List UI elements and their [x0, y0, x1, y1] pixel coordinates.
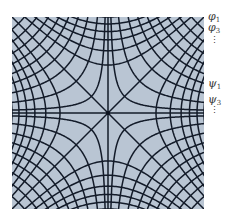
stagnation-point — [106, 111, 110, 115]
phi-ellipsis: ⋮ — [210, 38, 216, 43]
psi-ellipsis: ⋮ — [210, 108, 216, 113]
label-psi-1: ψ1 — [208, 78, 221, 93]
flow-net-plot — [12, 17, 204, 209]
